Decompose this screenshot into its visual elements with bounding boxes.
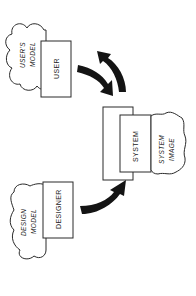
arrow-user-to-system-icon <box>77 65 113 96</box>
user-label: USER <box>53 58 60 79</box>
system-image-label-line1: SYSTEM <box>158 135 165 164</box>
arrow-designer-to-system-icon <box>80 180 126 214</box>
system-box: SYSTEM <box>120 115 151 172</box>
system-image-cloud: SYSTEM IMAGE <box>151 112 186 174</box>
designer-label: DESIGNER <box>55 189 62 229</box>
users-model-cloud: USER'S MODEL <box>6 24 46 91</box>
system-label: SYSTEM <box>132 131 139 162</box>
users-model-label-line1: USER'S <box>19 42 26 68</box>
users-model-label-line2: MODEL <box>29 42 36 67</box>
designer-box: DESIGNER <box>43 182 73 238</box>
system-image-label-line2: IMAGE <box>168 138 175 161</box>
conceptual-models-diagram: USER'S MODEL USER SYSTEM SYSTEM IMAGE DE… <box>0 0 196 296</box>
user-box: USER <box>41 41 71 97</box>
design-model-label-line1: DESIGN <box>20 209 27 236</box>
design-model-cloud: DESIGN MODEL <box>10 184 46 259</box>
design-model-label-line2: MODEL <box>30 209 37 234</box>
